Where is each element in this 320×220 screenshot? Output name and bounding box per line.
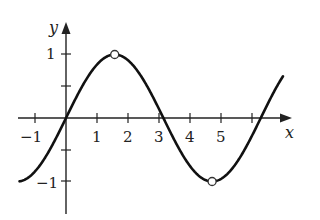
x-tick-label: −1 (20, 128, 42, 146)
x-axis-arrow-icon (280, 114, 292, 123)
x-tick-label: 4 (185, 128, 195, 146)
x-tick-label: 2 (123, 128, 133, 146)
y-tick-label: 1 (46, 45, 56, 63)
sine-chart: −1 1 2 3 4 5 1 −1 x y (0, 0, 320, 220)
x-axis (18, 114, 292, 123)
x-tick-label: 1 (92, 128, 102, 146)
y-axis-label: y (48, 18, 59, 37)
y-tick-label: −1 (36, 174, 58, 192)
x-tick-label: 3 (154, 128, 164, 146)
minimum-point-marker (208, 178, 216, 186)
y-axis-arrow-icon (62, 22, 71, 34)
maximum-point-marker (111, 51, 119, 59)
x-axis-label: x (285, 123, 294, 142)
x-tick-label: 5 (216, 128, 226, 146)
